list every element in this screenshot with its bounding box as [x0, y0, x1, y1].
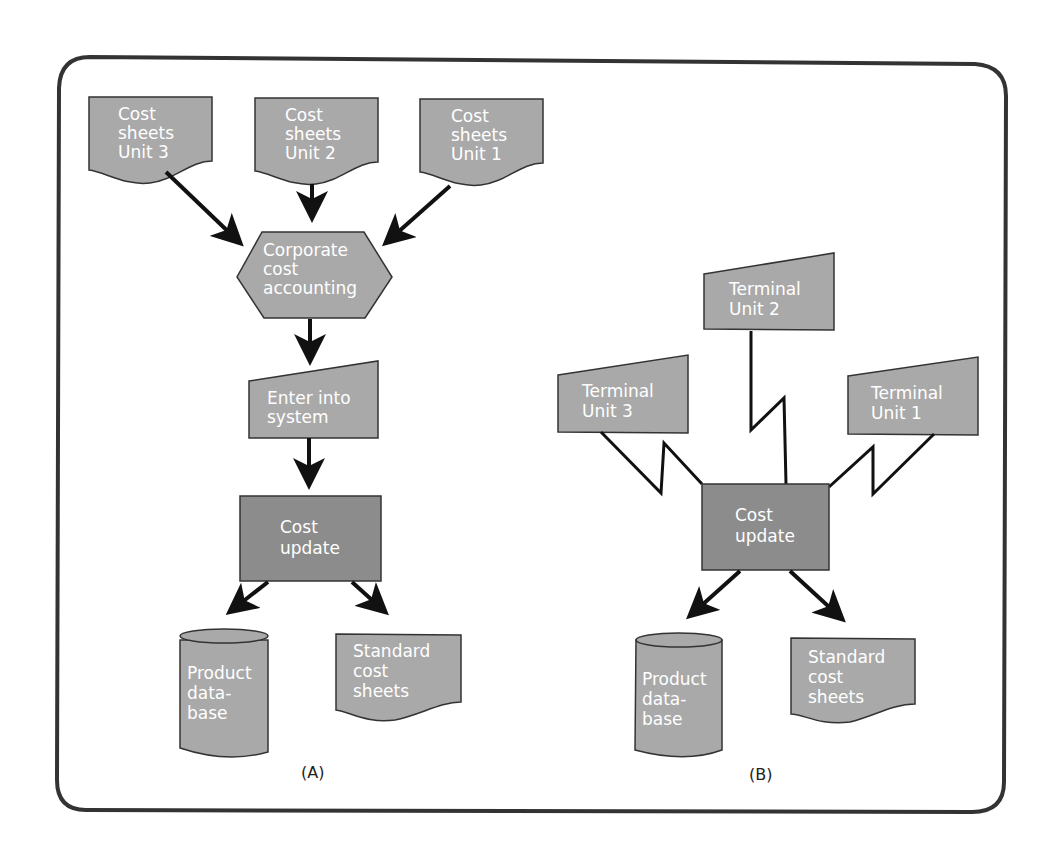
svg-text:cost: cost [808, 667, 844, 687]
process-cost-update-b: Cost update [702, 484, 829, 570]
svg-text:base: base [187, 703, 228, 723]
comm-link-unit-2 [751, 331, 786, 484]
arrow-update-to-database-b [692, 571, 740, 614]
svg-text:Product: Product [642, 669, 707, 689]
arrow-update-to-database-a [232, 582, 268, 610]
svg-text:data-: data- [187, 683, 231, 703]
comm-link-unit-1 [829, 434, 934, 494]
database-product-b: Product data- base [635, 633, 722, 757]
svg-text:Product: Product [187, 663, 252, 683]
svg-text:Standard: Standard [808, 647, 885, 667]
svg-text:Terminal: Terminal [870, 383, 943, 403]
terminal-unit-3: Terminal Unit 3 [558, 355, 688, 433]
svg-text:Unit 3: Unit 3 [582, 401, 633, 421]
arrow-update-to-doc-b [790, 571, 840, 617]
arrow-update-to-doc-a [352, 582, 383, 610]
svg-text:Terminal: Terminal [581, 381, 654, 401]
svg-text:Corporate: Corporate [263, 240, 348, 260]
arrow-unit1-to-process [388, 186, 450, 241]
comm-link-unit-3 [601, 432, 702, 493]
database-product-a: Product data- base [180, 629, 268, 757]
arrow-unit3-to-process [166, 172, 238, 241]
svg-text:sheets: sheets [118, 123, 174, 143]
caption-b: (B) [749, 765, 772, 784]
svg-text:Enter into: Enter into [267, 388, 351, 408]
svg-text:Cost: Cost [118, 104, 156, 124]
doc-cost-sheets-unit-1: Cost sheets Unit 1 [420, 99, 543, 185]
svg-text:Cost: Cost [451, 106, 489, 126]
svg-text:data-: data- [642, 689, 686, 709]
svg-text:Unit 1: Unit 1 [451, 144, 502, 164]
process-cost-update-a: Cost update [240, 496, 381, 581]
svg-text:Terminal: Terminal [728, 279, 801, 299]
svg-text:Cost: Cost [735, 505, 773, 525]
svg-text:Unit 1: Unit 1 [871, 403, 922, 423]
doc-cost-sheets-unit-3: Cost sheets Unit 3 [89, 97, 212, 183]
svg-text:Cost: Cost [285, 105, 323, 125]
svg-text:accounting: accounting [263, 278, 357, 298]
flowchart-diagram: Cost sheets Unit 3 Cost sheets Unit 2 Co… [0, 0, 1049, 844]
svg-text:cost: cost [353, 661, 389, 681]
panel-b: Terminal Unit 3 Terminal Unit 2 Terminal… [558, 253, 978, 784]
svg-text:Unit 2: Unit 2 [285, 143, 336, 163]
svg-text:Unit 2: Unit 2 [729, 299, 780, 319]
svg-text:Standard: Standard [353, 641, 430, 661]
svg-text:Cost: Cost [280, 517, 318, 537]
terminal-unit-1: Terminal Unit 1 [848, 357, 978, 435]
svg-text:sheets: sheets [285, 124, 341, 144]
svg-text:sheets: sheets [353, 681, 409, 701]
process-corporate-cost-accounting: Corporate cost accounting [237, 232, 392, 318]
terminal-unit-2: Terminal Unit 2 [704, 253, 834, 330]
doc-standard-cost-sheets-b: Standard cost sheets [791, 638, 915, 723]
svg-text:base: base [642, 709, 683, 729]
svg-text:cost: cost [263, 259, 299, 279]
svg-text:sheets: sheets [808, 687, 864, 707]
svg-text:sheets: sheets [451, 125, 507, 145]
svg-text:system: system [267, 407, 328, 427]
doc-cost-sheets-unit-2: Cost sheets Unit 2 [255, 98, 378, 184]
svg-text:update: update [280, 538, 340, 558]
svg-text:Unit 3: Unit 3 [118, 142, 169, 162]
caption-a: (A) [301, 763, 324, 782]
doc-standard-cost-sheets-a: Standard cost sheets [336, 634, 461, 721]
panel-a: Cost sheets Unit 3 Cost sheets Unit 2 Co… [89, 97, 543, 782]
svg-text:update: update [735, 526, 795, 546]
manual-input-enter-into-system: Enter into system [249, 361, 378, 438]
